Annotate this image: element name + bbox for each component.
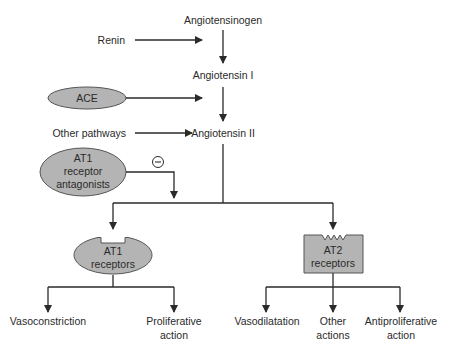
antiproliferative-label-line2: action [387, 329, 415, 341]
at2-receptor-line2: receptors [311, 257, 355, 269]
ace-label: ACE [76, 92, 98, 104]
raas-diagram: Angiotensinogen Angiotensin I Angiotensi… [0, 0, 454, 360]
angiotensin-2-label: Angiotensin II [191, 127, 255, 139]
other-actions-label-line2: actions [316, 329, 349, 341]
other-pathways-label: Other pathways [52, 127, 126, 139]
at1-antagonists-line1: AT1 [74, 152, 93, 164]
proliferative-label-line1: Proliferative [146, 315, 202, 327]
at1-receptor-line1: AT1 [104, 245, 123, 257]
at1-receptor-line2: receptors [91, 258, 135, 270]
proliferative-label-line2: action [160, 329, 188, 341]
other-actions-label-line1: Other [320, 315, 347, 327]
at2-receptor-line1: AT2 [324, 244, 343, 256]
at1-antagonists-line3: antagonists [56, 178, 110, 190]
renin-label: Renin [98, 34, 126, 46]
antiproliferative-label-line1: Antiproliferative [365, 315, 438, 327]
vasoconstriction-label: Vasoconstriction [10, 315, 86, 327]
vasodilatation-label: Vasodilatation [234, 315, 299, 327]
angiotensinogen-label: Angiotensinogen [184, 14, 262, 26]
angiotensin-1-label: Angiotensin I [193, 69, 254, 81]
at1-antagonists-line2: receptor [64, 165, 103, 177]
inhibition-minus-icon [153, 157, 164, 168]
antagonist-inhibition-arrow [126, 172, 174, 198]
